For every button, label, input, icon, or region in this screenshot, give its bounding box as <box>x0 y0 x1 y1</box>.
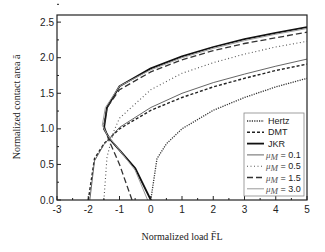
svg-text:DMT: DMT <box>268 127 288 137</box>
svg-text:-3: -3 <box>53 204 62 215</box>
y-axis-label: Normalized contact area ā <box>11 54 22 159</box>
svg-text:JKR: JKR <box>268 139 286 149</box>
x-axis-label: Normalized load F̄L <box>141 231 222 242</box>
svg-text:1.5: 1.5 <box>40 88 54 99</box>
svg-text:0.0: 0.0 <box>40 195 54 206</box>
svg-text:3: 3 <box>242 204 248 215</box>
svg-text:0.5: 0.5 <box>40 159 54 170</box>
svg-text:1: 1 <box>179 204 185 215</box>
svg-text:5: 5 <box>304 204 310 215</box>
svg-text:1.0: 1.0 <box>40 123 54 134</box>
legend: HertzDMTJKRμM = 0.1μM = 0.5μM = 1.5μM = … <box>244 113 304 196</box>
svg-text:0: 0 <box>148 204 154 215</box>
svg-text:2.5: 2.5 <box>40 17 54 28</box>
svg-text:4: 4 <box>273 204 279 215</box>
svg-text:-1: -1 <box>115 204 124 215</box>
svg-text:-2: -2 <box>84 204 93 215</box>
svg-text:Hertz: Hertz <box>268 116 290 126</box>
svg-text:2.0: 2.0 <box>40 52 54 63</box>
chart: -3-2-10123450.00.51.01.52.02.5 Normalize… <box>0 0 325 252</box>
svg-text:2: 2 <box>210 204 216 215</box>
